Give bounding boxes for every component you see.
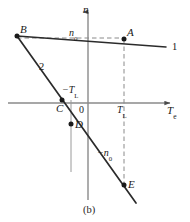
x-axis-label-subscript: e [173,112,176,121]
point-label-B: B [20,24,27,35]
curve-label-2: 2 [39,62,44,73]
tick-label-TL-negative: −TL [62,85,78,98]
y-axis-label: n [83,4,89,15]
point-marker-D [69,122,74,127]
point-label-E: E [128,179,135,190]
tick-label-TL-negative-subscript: L [74,92,78,99]
curve-line-1 [17,36,166,47]
curve-label-1: 1 [172,42,177,53]
x-axis-label: Te [167,105,176,119]
figure-graphic [0,0,190,222]
origin-label: 0 [79,105,84,115]
tick-label-TL-positive-subscript: L [123,112,127,119]
tick-label-n0-positive: n0 [69,28,77,41]
figure-caption: (b) [83,205,95,216]
tick-label-n0-positive-subscript: 0 [74,35,77,42]
point-marker-A [122,37,127,42]
point-label-A: A [127,27,134,38]
point-label-C: C [56,103,63,114]
point-marker-B [15,34,20,39]
tick-label-n0-negative-subscript: 0 [109,155,112,162]
figure-container: n Te 0 n0 −n0 TL −TL 1 2 B A C D E (b) [0,0,190,222]
point-marker-E [122,183,127,188]
tick-label-n0-negative: −n0 [97,148,112,161]
tick-label-TL-positive: TL [117,105,127,118]
point-label-D: D [75,119,83,130]
